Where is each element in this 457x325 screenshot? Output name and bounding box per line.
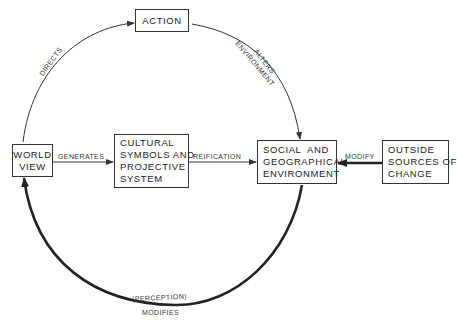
node-social-line2: GEOGRAPHICAL: [263, 156, 346, 168]
node-social-geographical-environment: SOCIAL AND GEOGRAPHICAL ENVIRONMENT: [257, 140, 337, 184]
edge-alters-environment: [192, 24, 300, 139]
label-modifies: MODIFIES: [142, 309, 179, 316]
label-modify: MODIFY: [345, 153, 375, 160]
node-social-line3: ENVIRONMENT: [263, 168, 340, 180]
node-outside-line2: SOURCES OF: [388, 156, 457, 168]
node-world-view: WORLD VIEW: [12, 144, 53, 177]
node-cultural-line1: CULTURAL: [120, 137, 174, 149]
node-world-view-line2: VIEW: [19, 161, 46, 173]
label-generates: GENERATES: [58, 153, 104, 160]
node-outside-line1: OUTSIDE: [388, 144, 434, 156]
node-outside-line3: CHANGE: [388, 168, 432, 180]
node-outside-sources: OUTSIDE SOURCES OF CHANGE: [382, 140, 449, 184]
node-cultural-line3: PROJECTIVE: [120, 161, 186, 173]
edge-perception-modifies: [24, 178, 302, 305]
node-action-label: ACTION: [142, 15, 182, 27]
node-cultural-symbols: CULTURAL SYMBOLS AND PROJECTIVE SYSTEM: [114, 134, 189, 188]
node-social-line1: SOCIAL AND: [263, 144, 329, 156]
node-cultural-line4: SYSTEM: [120, 173, 163, 185]
node-cultural-line2: SYMBOLS AND: [120, 149, 195, 161]
edge-directs: [23, 23, 134, 142]
node-world-view-line1: WORLD: [13, 149, 51, 161]
label-reification: REIFICATION: [193, 153, 241, 160]
node-action: ACTION: [135, 9, 189, 32]
